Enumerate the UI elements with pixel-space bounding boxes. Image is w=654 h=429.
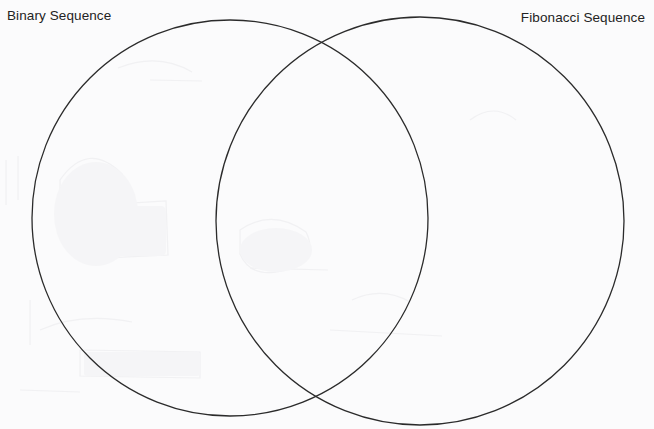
region-intersection[interactable]: [238, 130, 408, 310]
region-right-only[interactable]: [445, 120, 605, 320]
set-label-right: Fibonacci Sequence: [521, 11, 645, 25]
venn-diagram-page: Binary Sequence Fibonacci Sequence: [0, 0, 654, 429]
set-label-left: Binary Sequence: [7, 9, 111, 23]
region-left-only[interactable]: [45, 120, 205, 320]
